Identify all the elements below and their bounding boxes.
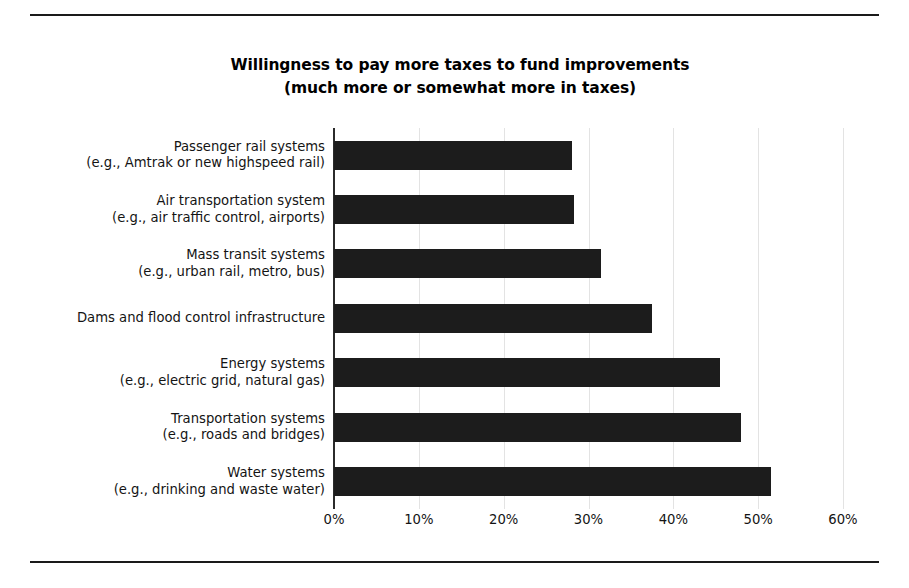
x-tick-label: 60%	[828, 512, 857, 527]
category-label-line-1: Passenger rail systems	[174, 139, 325, 156]
category-label: Mass transit systems(e.g., urban rail, m…	[20, 237, 325, 291]
category-label-line-1: Transportation systems	[171, 411, 325, 428]
bar-slot	[334, 454, 843, 508]
category-label: Transportation systems(e.g., roads and b…	[20, 400, 325, 454]
category-label: Dams and flood control infrastructure	[20, 291, 325, 345]
bar	[334, 141, 572, 170]
x-tick-label: 0%	[324, 512, 345, 527]
bar-slot	[334, 346, 843, 400]
gridline-60%	[843, 128, 844, 509]
bar	[334, 249, 601, 278]
bar-series	[334, 128, 843, 509]
x-tick-label: 50%	[744, 512, 773, 527]
category-label-line-2: (e.g., drinking and waste water)	[114, 482, 325, 499]
value-axis-tick-labels: 0%10%20%30%40%50%60%	[334, 512, 843, 536]
bar	[334, 195, 574, 224]
category-label-line-1: Air transportation system	[157, 193, 325, 210]
category-label: Air transportation system(e.g., air traf…	[20, 182, 325, 236]
category-label: Passenger rail systems(e.g., Amtrak or n…	[20, 128, 325, 182]
category-label-line-1: Mass transit systems	[186, 247, 325, 264]
figure-page: Willingness to pay more taxes to fund im…	[0, 0, 909, 588]
bar	[334, 358, 720, 387]
bar-slot	[334, 237, 843, 291]
category-label-line-2: (e.g., electric grid, natural gas)	[120, 373, 325, 390]
category-label-line-2: (e.g., air traffic control, airports)	[112, 210, 325, 227]
bar-slot	[334, 128, 843, 182]
x-tick-label: 20%	[489, 512, 518, 527]
category-label-line-2: (e.g., urban rail, metro, bus)	[138, 264, 325, 281]
bar	[334, 304, 652, 333]
x-tick-label: 40%	[659, 512, 688, 527]
bar-slot	[334, 291, 843, 345]
category-label-line-1: Dams and flood control infrastructure	[77, 310, 325, 327]
x-tick-label: 10%	[404, 512, 433, 527]
bar	[334, 413, 741, 442]
bar-slot	[334, 400, 843, 454]
chart-title-line-2: (much more or somewhat more in taxes)	[120, 77, 800, 100]
chart-title: Willingness to pay more taxes to fund im…	[120, 54, 800, 100]
category-label-line-2: (e.g., roads and bridges)	[163, 427, 325, 444]
category-label-line-1: Water systems	[227, 465, 325, 482]
x-tick-label: 30%	[574, 512, 603, 527]
category-axis-labels: Passenger rail systems(e.g., Amtrak or n…	[20, 128, 325, 509]
category-label: Water systems(e.g., drinking and waste w…	[20, 454, 325, 508]
category-label-line-1: Energy systems	[220, 356, 325, 373]
bar-slot	[334, 182, 843, 236]
bar	[334, 467, 771, 496]
top-divider-rule	[30, 14, 879, 16]
category-label: Energy systems(e.g., electric grid, natu…	[20, 346, 325, 400]
bottom-divider-rule	[30, 561, 879, 563]
chart-title-line-1: Willingness to pay more taxes to fund im…	[120, 54, 800, 77]
category-label-line-2: (e.g., Amtrak or new highspeed rail)	[86, 155, 325, 172]
plot-area	[334, 128, 843, 509]
